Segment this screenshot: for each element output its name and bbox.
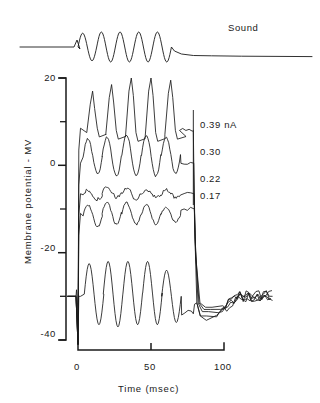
membrane-potential-traces: [68, 78, 272, 344]
x-axis: [78, 343, 224, 350]
x-tick-label-100: 100: [214, 361, 232, 372]
y-axis-title: Membrane potential - MV: [22, 127, 33, 277]
trace-label-3: 0.17: [200, 190, 221, 201]
trace-039nA: [68, 78, 272, 344]
y-axis-ticks: [58, 78, 66, 340]
trace-control: [68, 261, 272, 344]
x-tick-label-50: 50: [144, 361, 156, 372]
y-tick-label--20: -20: [30, 242, 56, 253]
trace-label-0: 0.39 nA: [200, 119, 237, 130]
trace-label-2: 0.22: [200, 173, 221, 184]
sound-waveform: [20, 32, 312, 62]
y-axis: [58, 78, 66, 340]
sound-trace-panel: [20, 32, 312, 62]
y-tick-label-20: 20: [30, 72, 56, 83]
x-axis-title: Time (msec): [118, 383, 179, 394]
y-tick-label--40: -40: [30, 328, 56, 339]
membrane-potential-figure: [0, 0, 320, 403]
trace-030: [68, 135, 272, 344]
y-tick-label-0: 0: [30, 157, 56, 168]
trace-label-1: 0.30: [200, 146, 221, 157]
sound-label: Sound: [228, 22, 258, 33]
x-tick-label-0: 0: [74, 361, 80, 372]
